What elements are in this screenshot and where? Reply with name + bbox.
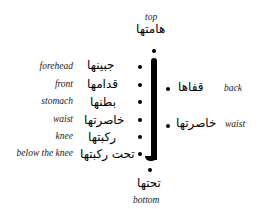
label-front-en: front [55, 79, 73, 89]
dot-forehead [138, 65, 142, 69]
label-waist-left-en: waist [53, 114, 73, 124]
label-front-ar: قدامها [87, 77, 118, 91]
dot-knee [138, 135, 142, 139]
label-waist-right-en: waist [225, 119, 245, 129]
alif-tail [145, 156, 157, 161]
label-knee-en: knee [56, 131, 73, 141]
label-top-ar: هامتها [136, 22, 165, 36]
dot-stomach [138, 100, 142, 104]
dot-front [138, 83, 142, 87]
label-waist-right-ar: خاصرتها [176, 116, 216, 130]
dot-back [166, 87, 170, 91]
label-bottom-en: bottom [133, 195, 159, 205]
label-forehead-ar: جبينها [87, 58, 114, 72]
label-forehead-en: forehead [40, 61, 73, 71]
dot-waist-right [166, 124, 170, 128]
label-below-knee-en: below the knee [17, 148, 73, 158]
label-back-en: back [224, 83, 242, 93]
dot-top [152, 49, 156, 53]
label-top-en: top [145, 12, 157, 22]
dot-waist-left [138, 118, 142, 122]
label-waist-left-ar: خاصرتها [84, 113, 124, 127]
label-below-knee-ar: تحت ركبتها [80, 147, 135, 161]
label-stomach-ar: بطنها [90, 95, 116, 109]
label-stomach-en: stomach [41, 96, 73, 106]
label-knee-ar: ركبتها [88, 130, 116, 144]
dot-below-knee [138, 152, 142, 156]
alif-stem [151, 58, 157, 160]
dot-bottom [148, 168, 152, 172]
label-bottom-ar: تحتها [137, 176, 161, 190]
label-back-ar: قفاها [178, 80, 203, 94]
